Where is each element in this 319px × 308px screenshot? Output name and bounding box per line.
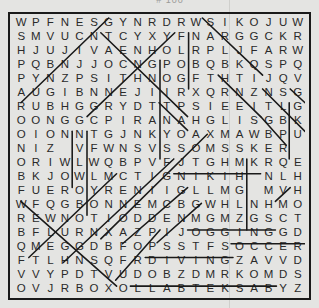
grid-letter[interactable]: S bbox=[87, 16, 102, 30]
grid-letter[interactable]: L bbox=[130, 282, 145, 296]
grid-letter[interactable]: O bbox=[29, 114, 44, 128]
grid-letter[interactable]: R bbox=[58, 184, 73, 198]
grid-letter[interactable]: Y bbox=[87, 184, 102, 198]
grid-letter[interactable]: T bbox=[87, 268, 102, 282]
grid-letter[interactable]: Q bbox=[276, 156, 291, 170]
grid-letter[interactable]: P bbox=[14, 72, 29, 86]
grid-letter[interactable]: C bbox=[116, 170, 131, 184]
grid-letter[interactable]: D bbox=[130, 100, 145, 114]
grid-letter[interactable]: S bbox=[247, 114, 262, 128]
grid-letter[interactable]: C bbox=[261, 240, 276, 254]
grid-letter[interactable]: J bbox=[58, 44, 73, 58]
grid-letter[interactable]: E bbox=[160, 212, 175, 226]
grid-letter[interactable]: K bbox=[247, 156, 262, 170]
grid-letter[interactable]: I bbox=[145, 86, 160, 100]
grid-letter[interactable]: Y bbox=[130, 30, 145, 44]
grid-letter[interactable]: I bbox=[189, 254, 204, 268]
grid-letter[interactable]: S bbox=[160, 240, 175, 254]
grid-letter[interactable]: G bbox=[261, 226, 276, 240]
grid-letter[interactable]: S bbox=[218, 240, 233, 254]
grid-letter[interactable]: M bbox=[29, 30, 44, 44]
grid-letter[interactable]: J bbox=[261, 72, 276, 86]
grid-letter[interactable]: R bbox=[276, 44, 291, 58]
grid-letter[interactable]: F bbox=[116, 240, 131, 254]
grid-letter[interactable]: V bbox=[276, 184, 291, 198]
grid-letter[interactable]: S bbox=[130, 142, 145, 156]
grid-letter[interactable]: C bbox=[87, 114, 102, 128]
grid-letter[interactable]: O bbox=[14, 282, 29, 296]
grid-letter[interactable]: O bbox=[232, 240, 247, 254]
grid-letter[interactable]: O bbox=[160, 44, 175, 58]
grid-letter[interactable]: Q bbox=[43, 198, 58, 212]
grid-letter[interactable]: V bbox=[174, 254, 189, 268]
grid-letter[interactable]: L bbox=[87, 170, 102, 184]
grid-letter[interactable]: D bbox=[160, 16, 175, 30]
grid-letter[interactable]: I bbox=[29, 128, 44, 142]
grid-letter[interactable]: H bbox=[145, 44, 160, 58]
grid-letter[interactable]: M bbox=[101, 170, 116, 184]
grid-letter[interactable]: O bbox=[174, 58, 189, 72]
grid-letter[interactable]: V bbox=[43, 30, 58, 44]
grid-letter[interactable]: W bbox=[203, 198, 218, 212]
grid-letter[interactable]: F bbox=[14, 184, 29, 198]
grid-letter[interactable]: M bbox=[29, 240, 44, 254]
grid-letter[interactable]: K bbox=[247, 142, 262, 156]
grid-letter[interactable]: C bbox=[116, 30, 131, 44]
grid-letter[interactable]: G bbox=[290, 86, 305, 100]
grid-letter[interactable]: R bbox=[101, 184, 116, 198]
grid-letter[interactable]: I bbox=[232, 114, 247, 128]
grid-letter[interactable]: A bbox=[174, 114, 189, 128]
grid-letter[interactable]: U bbox=[29, 100, 44, 114]
grid-letter[interactable]: I bbox=[58, 86, 73, 100]
grid-letter[interactable]: D bbox=[276, 268, 291, 282]
grid-letter[interactable]: F bbox=[189, 72, 204, 86]
grid-letter[interactable]: E bbox=[29, 212, 44, 226]
grid-letter[interactable]: A bbox=[14, 86, 29, 100]
grid-letter[interactable]: I bbox=[160, 184, 175, 198]
grid-letter[interactable]: N bbox=[101, 198, 116, 212]
grid-letter[interactable]: X bbox=[101, 282, 116, 296]
grid-letter[interactable]: L bbox=[203, 184, 218, 198]
grid-letter[interactable]: Q bbox=[101, 254, 116, 268]
grid-letter[interactable]: P bbox=[130, 156, 145, 170]
grid-letter[interactable]: U bbox=[58, 226, 73, 240]
grid-letter[interactable]: E bbox=[116, 86, 131, 100]
grid-letter[interactable]: G bbox=[218, 226, 233, 240]
grid-letter[interactable]: T bbox=[189, 282, 204, 296]
grid-letter[interactable]: L bbox=[174, 44, 189, 58]
grid-letter[interactable]: G bbox=[101, 128, 116, 142]
grid-letter[interactable]: S bbox=[87, 72, 102, 86]
grid-letter[interactable]: G bbox=[276, 226, 291, 240]
grid-letter[interactable]: V bbox=[145, 142, 160, 156]
grid-letter[interactable]: N bbox=[72, 128, 87, 142]
grid-letter[interactable]: R bbox=[290, 240, 305, 254]
grid-letter[interactable]: N bbox=[247, 198, 262, 212]
grid-letter[interactable]: I bbox=[218, 170, 233, 184]
grid-letter[interactable]: K bbox=[218, 282, 233, 296]
grid-letter[interactable]: J bbox=[174, 156, 189, 170]
grid-letter[interactable]: S bbox=[261, 212, 276, 226]
grid-letter[interactable]: N bbox=[87, 86, 102, 100]
grid-letter[interactable]: C bbox=[72, 30, 87, 44]
grid-letter[interactable]: L bbox=[218, 44, 233, 58]
grid-letter[interactable]: D bbox=[130, 212, 145, 226]
grid-letter[interactable]: V bbox=[29, 268, 44, 282]
grid-letter[interactable]: Y bbox=[160, 30, 175, 44]
grid-letter[interactable]: N bbox=[130, 16, 145, 30]
grid-letter[interactable]: V bbox=[145, 156, 160, 170]
grid-letter[interactable]: R bbox=[14, 212, 29, 226]
grid-letter[interactable]: N bbox=[130, 128, 145, 142]
grid-letter[interactable]: M bbox=[218, 212, 233, 226]
grid-letter[interactable]: H bbox=[189, 114, 204, 128]
grid-letter[interactable]: C bbox=[160, 198, 175, 212]
grid-letter[interactable]: C bbox=[116, 58, 131, 72]
grid-letter[interactable]: T bbox=[189, 156, 204, 170]
grid-letter[interactable]: L bbox=[145, 282, 160, 296]
grid-letter[interactable]: T bbox=[87, 128, 102, 142]
grid-letter[interactable]: X bbox=[203, 128, 218, 142]
grid-letter[interactable]: R bbox=[218, 86, 233, 100]
grid-letter[interactable]: L bbox=[189, 184, 204, 198]
grid-letter[interactable]: N bbox=[261, 170, 276, 184]
grid-letter[interactable]: R bbox=[130, 254, 145, 268]
grid-letter[interactable]: E bbox=[72, 16, 87, 30]
